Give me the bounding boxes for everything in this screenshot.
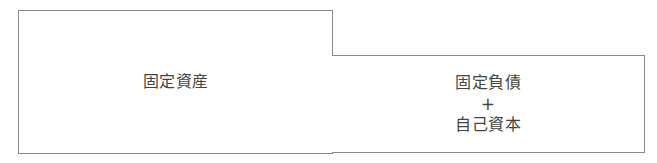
- right-box-label-group: 固定負債 + 自己資本: [455, 72, 521, 136]
- plus-sign: +: [481, 94, 496, 114]
- fixed-liabilities-label: 固定負債: [455, 72, 521, 94]
- fixed-assets-label: 固定資産: [143, 71, 209, 93]
- equity-capital-label: 自己資本: [455, 114, 521, 136]
- fixed-liabilities-plus-equity-box: 固定負債 + 自己資本: [332, 55, 645, 153]
- fixed-assets-box: 固定資産: [18, 10, 333, 154]
